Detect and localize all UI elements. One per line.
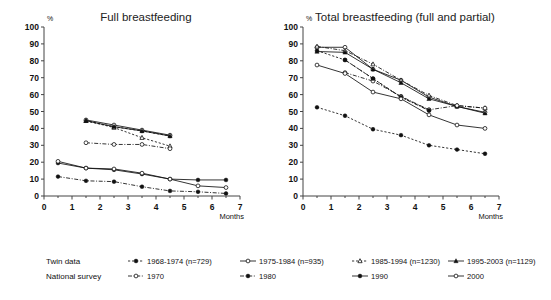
marker-open-circle (224, 186, 228, 190)
marker-open-circle (343, 72, 347, 76)
marker-filled-circle (315, 105, 319, 109)
marker-filled-circle (224, 178, 228, 182)
y-tick-label: 90 (30, 39, 40, 49)
x-tick-label: 5 (182, 202, 187, 212)
legend-entry[interactable]: 1968-1974 (n=729) (128, 257, 212, 266)
y-tick-label: 50 (30, 107, 40, 117)
marker-filled-circle (134, 259, 138, 263)
y-tick-label: 30 (30, 140, 40, 150)
y-tick-label: 30 (289, 140, 299, 150)
marker-open-circle (371, 90, 375, 94)
marker-filled-circle (246, 274, 250, 278)
marker-open-circle (140, 171, 144, 175)
legend-entry[interactable]: 1970 (128, 272, 164, 281)
x-tick-label: 0 (301, 202, 306, 212)
x-axis-label: Months (478, 212, 503, 221)
marker-open-circle (454, 274, 458, 278)
marker-open-triangle (315, 44, 319, 48)
marker-open-circle (168, 177, 172, 181)
y-tick-label: 20 (30, 157, 40, 167)
marker-open-circle (112, 143, 116, 147)
marker-filled-circle (56, 175, 60, 179)
y-tick-label: 70 (289, 73, 299, 83)
marker-filled-circle (399, 133, 403, 137)
marker-filled-circle (84, 179, 88, 183)
legend-entry-label: 1985-1994 (n=1230) (371, 257, 441, 266)
legend-entry-label: 1970 (147, 272, 164, 281)
marker-open-circle (56, 159, 60, 163)
panel-title: Full breastfeeding (100, 11, 191, 23)
x-tick-label: 0 (42, 202, 47, 212)
x-tick-label: 7 (497, 202, 502, 212)
marker-open-circle (399, 97, 403, 101)
x-axis-label: Months (219, 212, 244, 221)
marker-open-circle (196, 184, 200, 188)
y-tick-label: 10 (30, 174, 40, 184)
marker-filled-circle (427, 143, 431, 147)
marker-filled-circle (168, 189, 172, 193)
series-line (86, 120, 170, 135)
y-tick-label: 100 (25, 22, 39, 32)
legend-entry[interactable]: 2000 (448, 272, 484, 281)
marker-open-triangle (358, 259, 362, 263)
y-tick-label: 40 (289, 123, 299, 133)
y-tick-label: 60 (30, 90, 40, 100)
breastfeeding-duration-figure: Full breastfeeding%010203040506070809010… (0, 0, 551, 300)
y-tick-label: 80 (289, 56, 299, 66)
legend-entry-label: 1975-1984 (n=935) (259, 257, 324, 266)
y-tick-label: 0 (293, 191, 298, 201)
series-line (86, 121, 170, 136)
x-tick-label: 6 (210, 202, 215, 212)
marker-filled-circle (112, 180, 116, 184)
x-tick-label: 4 (154, 202, 159, 212)
legend-entry-label: 1995-2003 (n=1129) (467, 257, 536, 266)
marker-open-circle (483, 126, 487, 130)
y-axis-unit-label: % (47, 15, 53, 22)
series-1980 (56, 175, 228, 196)
y-tick-label: 40 (30, 123, 40, 133)
x-tick-label: 2 (357, 202, 362, 212)
marker-filled-circle (196, 178, 200, 182)
marker-open-circle (455, 104, 459, 108)
y-tick-label: 50 (289, 107, 299, 117)
x-tick-label: 4 (413, 202, 418, 212)
marker-filled-circle (343, 58, 347, 62)
y-tick-label: 10 (289, 174, 299, 184)
y-axis-unit-label: % (306, 15, 312, 22)
marker-filled-circle (427, 109, 431, 113)
y-tick-label: 0 (34, 191, 39, 201)
panel-1: Full breastfeeding%010203040506070809010… (25, 11, 244, 221)
legend-entry-label: 1980 (259, 272, 276, 281)
legend-entry[interactable]: 1980 (240, 272, 276, 281)
marker-open-circle (246, 259, 250, 263)
y-tick-label: 70 (30, 73, 40, 83)
marker-open-triangle (140, 135, 144, 139)
marker-open-circle (483, 106, 487, 110)
marker-filled-circle (371, 77, 375, 81)
legend-entry[interactable]: 1975-1984 (n=935) (240, 257, 324, 266)
panel-2: Total breastfeeding (full and partial)%0… (284, 11, 503, 221)
y-tick-label: 20 (289, 157, 299, 167)
series-line (86, 143, 170, 149)
marker-open-circle (134, 274, 138, 278)
y-tick-label: 90 (289, 39, 299, 49)
legend-entry-label: 1968-1974 (n=729) (147, 257, 212, 266)
marker-filled-circle (140, 185, 144, 189)
marker-open-circle (168, 147, 172, 151)
legend-entry[interactable]: 1995-2003 (n=1129) (448, 257, 536, 266)
x-tick-label: 7 (238, 202, 243, 212)
legend-entry[interactable]: 1985-1994 (n=1230) (352, 257, 441, 266)
legend-group-heading: National survey (46, 272, 101, 281)
marker-open-circle (315, 63, 319, 67)
panel-title: Total breastfeeding (full and partial) (315, 11, 495, 23)
series-line (345, 60, 429, 111)
marker-open-circle (112, 167, 116, 171)
marker-open-circle (455, 123, 459, 127)
series-1970 (84, 141, 172, 151)
legend-entry[interactable]: 1990 (352, 272, 388, 281)
marker-filled-circle (224, 192, 228, 196)
series-1980 (315, 105, 487, 155)
marker-filled-circle (455, 148, 459, 152)
y-tick-label: 60 (289, 90, 299, 100)
legend-entry-label: 1990 (371, 272, 388, 281)
